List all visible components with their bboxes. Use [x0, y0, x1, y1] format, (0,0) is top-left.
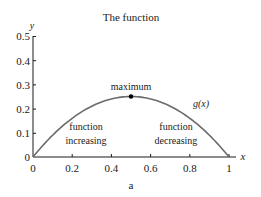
svg-text:0.3: 0.3 [16, 79, 30, 91]
chart: The function 0 0.1 0.2 0.3 0.4 0.5 0 0.2… [0, 0, 261, 197]
x-axis-label: x [240, 150, 246, 162]
svg-text:increasing: increasing [65, 135, 106, 146]
svg-text:function: function [159, 121, 192, 132]
svg-text:0.1: 0.1 [16, 127, 30, 139]
svg-text:function: function [69, 121, 102, 132]
svg-text:0.2: 0.2 [65, 162, 79, 174]
svg-text:0.8: 0.8 [183, 162, 197, 174]
y-axis-label: y [29, 20, 35, 31]
svg-text:0.5: 0.5 [16, 30, 30, 42]
maximum-point-marker [129, 94, 134, 99]
chart-title: The function [103, 11, 160, 23]
svg-text:decreasing: decreasing [155, 135, 198, 146]
increasing-label: function increasing [65, 121, 106, 146]
y-tick-labels: 0 0.1 0.2 0.3 0.4 0.5 [16, 30, 30, 163]
svg-text:0.4: 0.4 [16, 55, 30, 67]
x-tick-labels: 0 0.2 0.4 0.6 0.8 1 [30, 162, 232, 174]
maximum-label: maximum [111, 81, 152, 92]
svg-text:0.6: 0.6 [144, 162, 158, 174]
curve-label: g(x) [193, 98, 210, 110]
svg-text:0.4: 0.4 [105, 162, 119, 174]
svg-text:1: 1 [226, 162, 232, 174]
svg-text:0: 0 [30, 162, 36, 174]
svg-text:0.2: 0.2 [16, 103, 30, 115]
decreasing-label: function decreasing [155, 121, 198, 146]
figure-caption: a [129, 179, 134, 191]
